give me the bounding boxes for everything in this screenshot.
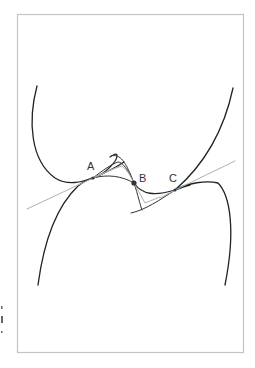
- point-A-marker: [91, 176, 94, 179]
- right-lower-curve: [175, 182, 231, 285]
- point-C-marker: [173, 188, 176, 191]
- cap-curve: [111, 155, 142, 210]
- point-B-label: B: [139, 172, 146, 184]
- point-C-label: C: [169, 172, 177, 184]
- figure-border: [18, 15, 244, 353]
- right-upper-curve: [175, 88, 233, 190]
- left-upper-curve: [32, 86, 124, 183]
- edge-mark: [1, 331, 3, 333]
- edge-mark: [1, 316, 3, 323]
- point-A-label: A: [87, 160, 95, 172]
- tangent-A: [27, 166, 120, 209]
- point-B-marker: [131, 180, 136, 185]
- diagram-canvas: A B C: [0, 0, 255, 368]
- edge-mark: [1, 306, 3, 309]
- arc-A-B-lower: [93, 176, 134, 183]
